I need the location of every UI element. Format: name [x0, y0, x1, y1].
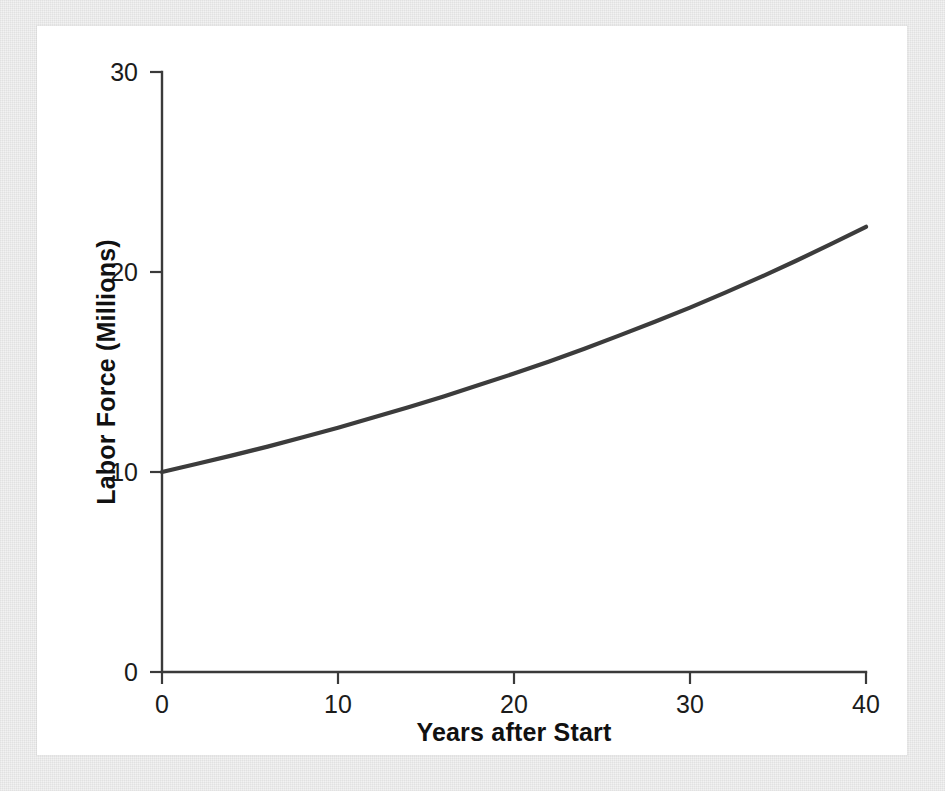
x-tick-label-30: 30 — [676, 692, 704, 717]
labor-force-curve — [162, 227, 866, 472]
chart-plot-area — [0, 0, 945, 791]
x-tick-label-20: 20 — [500, 692, 528, 717]
x-tick-label-40: 40 — [852, 692, 880, 717]
y-axis-title: Labor Force (Millions) — [92, 72, 121, 672]
figure-page: 30 20 10 0 0 10 20 30 40 Years after Sta… — [0, 0, 945, 791]
x-axis-title: Years after Start — [162, 718, 866, 747]
x-tick-label-10: 10 — [324, 692, 352, 717]
x-tick-label-0: 0 — [155, 692, 169, 717]
